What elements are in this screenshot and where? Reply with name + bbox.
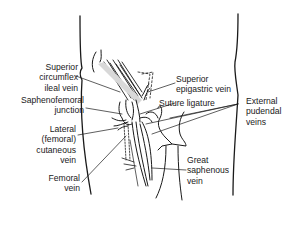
upper-vein-bundle xyxy=(104,60,142,100)
label-line: Suture ligature xyxy=(159,98,239,108)
label-line: Lateral xyxy=(20,124,76,134)
label-femoral-vein: Femoral vein xyxy=(30,173,80,194)
shaded-band xyxy=(98,62,142,104)
saphenous-trunk xyxy=(142,122,152,180)
label-line: pudendal xyxy=(246,106,292,116)
femoral-vein-dashed xyxy=(124,124,126,160)
saphenous-trunk xyxy=(132,122,146,186)
skin-fold-mark xyxy=(92,52,96,72)
label-line: veins xyxy=(246,117,292,127)
label-line: Superior xyxy=(18,62,78,72)
skin-flap-stem xyxy=(178,146,182,200)
label-line: vein xyxy=(30,183,80,193)
label-line: Femoral xyxy=(30,173,80,183)
label-line: Great xyxy=(187,155,247,165)
label-line: vein xyxy=(20,155,76,165)
label-external-pudendal-veins: External pudendal veins xyxy=(246,96,292,127)
label-saphenofemoral-junction: Saphenofemoral junction xyxy=(6,95,84,116)
femoral-vein-dashed xyxy=(128,124,130,160)
label-line: vein xyxy=(187,176,247,186)
label-line: External xyxy=(246,96,292,106)
deep-branch xyxy=(130,140,138,186)
label-lateral-femoral-cutaneous-vein: Lateral (femoral) cutaneous vein xyxy=(20,124,76,166)
label-line: saphenous xyxy=(187,165,247,175)
incision-line xyxy=(138,72,150,100)
label-line: junction xyxy=(6,105,84,115)
label-suture-ligature: Suture ligature xyxy=(159,98,239,108)
label-line: (femoral) xyxy=(20,134,76,144)
label-line: Saphenofemoral xyxy=(6,95,84,105)
label-great-saphenous-vein: Great saphenous vein xyxy=(187,155,247,186)
label-line: circumflex xyxy=(18,72,78,82)
label-superior-circumflex-ileal-vein: Superior circumflex ileal vein xyxy=(18,62,78,93)
label-line: cutaneous xyxy=(20,145,76,155)
label-line: epigastric vein xyxy=(176,84,256,94)
skin-flap-stem xyxy=(156,146,166,198)
label-line: ileal vein xyxy=(18,83,78,93)
junction-cluster xyxy=(112,100,158,130)
skin-fold-mark xyxy=(100,50,101,62)
label-superior-epigastric-vein: Superior epigastric vein xyxy=(176,74,256,95)
label-line: Superior xyxy=(176,74,256,84)
